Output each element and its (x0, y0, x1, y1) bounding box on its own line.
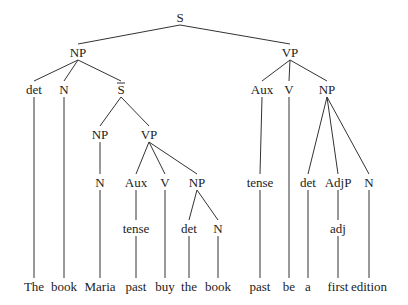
tree-edge (180, 25, 290, 44)
node-label: S (117, 82, 124, 97)
tree-edge (327, 97, 338, 174)
leaf-word: past (126, 279, 147, 294)
tree-edge (289, 60, 290, 81)
tree-edge (308, 97, 327, 174)
tree-labels: SNPVPdetNSAuxVNPNPVPNAuxVNPtensedetAdjPN… (24, 10, 388, 294)
leaf-word: first (328, 279, 349, 294)
node-label: NP (189, 175, 206, 190)
leaf-word: book (51, 279, 78, 294)
leaf-word: be (283, 279, 296, 294)
node-label: VP (141, 127, 158, 142)
node-label: N (59, 82, 69, 97)
tree-edge (197, 190, 218, 220)
node-label: Aux (251, 82, 274, 97)
node-label: NP (70, 45, 87, 60)
tree-edge (78, 25, 180, 44)
tree-edge (262, 60, 290, 81)
leaf-word: Maria (84, 279, 115, 294)
leaf-word: a (305, 279, 311, 294)
node-label: AdjP (325, 175, 352, 190)
leaf-word: the (181, 279, 197, 294)
node-label: N (364, 175, 374, 190)
node-label: V (160, 175, 170, 190)
tree-edge (100, 97, 121, 126)
node-label: VP (282, 45, 299, 60)
leaf-word: edition (351, 279, 388, 294)
node-label: det (26, 82, 42, 97)
node-label: adj (330, 221, 346, 236)
syntax-tree: SNPVPdetNSAuxVNPNPVPNAuxVNPtensedetAdjPN… (0, 0, 408, 305)
node-label: Aux (125, 175, 148, 190)
leaf-word: buy (155, 279, 175, 294)
tree-edge (260, 97, 262, 174)
tree-edge (149, 142, 197, 174)
node-label: V (284, 82, 294, 97)
tree-edge (78, 60, 121, 81)
node-label: det (181, 221, 197, 236)
tree-edge (136, 142, 149, 174)
node-label: tense (123, 221, 150, 236)
tree-edge (290, 60, 327, 81)
node-label: tense (247, 175, 274, 190)
tree-edge (121, 97, 149, 126)
tree-edge (189, 190, 197, 220)
node-label: N (213, 221, 223, 236)
node-label: det (300, 175, 316, 190)
tree-edges (34, 25, 369, 278)
leaf-word: The (24, 279, 44, 294)
node-label: S (176, 10, 183, 25)
node-label: NP (92, 127, 109, 142)
tree-edge (327, 97, 369, 174)
node-label: N (95, 175, 105, 190)
leaf-word: book (205, 279, 232, 294)
node-label: NP (319, 82, 336, 97)
leaf-word: past (250, 279, 271, 294)
